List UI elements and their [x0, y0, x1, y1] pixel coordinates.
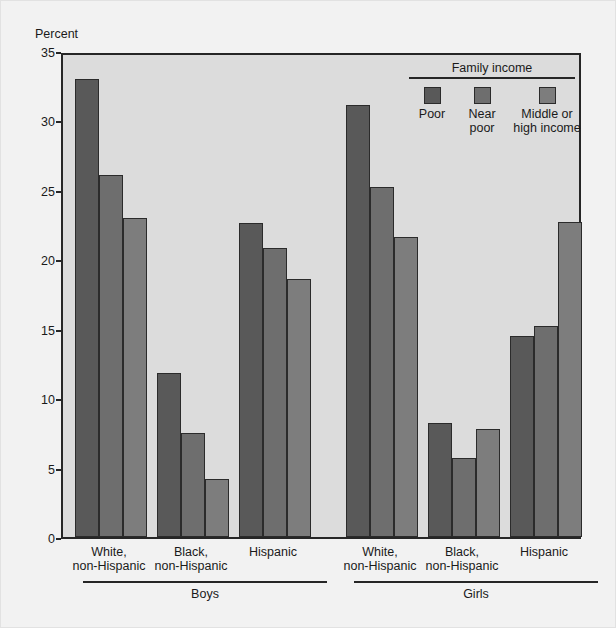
y-axis-label: Percent: [35, 27, 78, 41]
legend-swatch: [424, 87, 441, 104]
legend-item: Poor: [409, 79, 455, 121]
sex-group-rule: [354, 581, 598, 583]
y-tick-label: 10: [1, 393, 55, 407]
y-tick-label: 15: [1, 324, 55, 338]
bar: [476, 429, 500, 537]
sex-group-label: Girls: [354, 587, 598, 601]
y-tick-label: 35: [1, 46, 55, 60]
bar: [428, 423, 452, 537]
bar: [510, 336, 534, 537]
legend-swatch: [474, 87, 491, 104]
x-group-label-line: non-Hispanic: [402, 559, 522, 573]
bar: [452, 458, 476, 537]
bar: [534, 326, 558, 537]
bar: [239, 223, 263, 537]
bar: [346, 105, 370, 537]
bar: [370, 187, 394, 537]
bar: [99, 175, 123, 537]
legend-item: Near poor: [459, 79, 505, 135]
x-group-label-line: Hispanic: [484, 545, 604, 559]
bar: [181, 433, 205, 537]
chart-figure: Percent 05101520253035 White,non-Hispani…: [0, 0, 616, 628]
x-group-label: Hispanic: [213, 545, 333, 559]
legend-items: PoorNear poorMiddle or high income: [409, 79, 575, 137]
legend-title: Family income: [409, 61, 575, 75]
bar: [205, 479, 229, 537]
sex-group-label: Boys: [83, 587, 327, 601]
bar: [123, 218, 147, 537]
bar: [157, 373, 181, 537]
y-tick-label: 30: [1, 115, 55, 129]
legend-swatch: [539, 87, 556, 104]
x-group-label: Hispanic: [484, 545, 604, 559]
y-tick-label: 0: [1, 532, 55, 546]
y-tick-label: 20: [1, 254, 55, 268]
y-tick-label: 25: [1, 185, 55, 199]
legend-label: Middle or high income: [509, 107, 585, 135]
bar: [75, 79, 99, 537]
legend-item: Middle or high income: [509, 79, 585, 135]
legend-label: Near poor: [459, 107, 505, 135]
x-group-label-line: non-Hispanic: [131, 559, 251, 573]
bar: [263, 248, 287, 537]
bar: [558, 222, 582, 537]
bar: [394, 237, 418, 537]
sex-group-rule: [83, 581, 327, 583]
legend-label: Poor: [409, 107, 455, 121]
y-tick-label: 5: [1, 463, 55, 477]
x-group-label-line: Hispanic: [213, 545, 333, 559]
bar: [287, 279, 311, 537]
legend: Family income PoorNear poorMiddle or hig…: [409, 61, 575, 137]
